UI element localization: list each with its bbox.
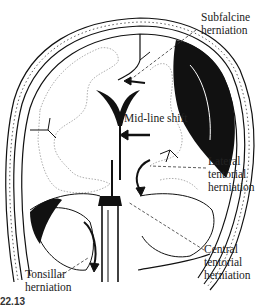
label-line: herniation xyxy=(204,269,251,282)
label-line: Subfalcine xyxy=(201,11,250,24)
label-line: herniation xyxy=(25,281,72,294)
label-line: herniation xyxy=(208,181,255,194)
falx xyxy=(118,34,140,80)
label-line: Central xyxy=(204,243,251,256)
label-central-tentorial-herniation: Central tentorial herniation xyxy=(204,243,251,282)
label-subfalcine-herniation: Subfalcine herniation xyxy=(201,11,250,37)
label-line: Mid-line shift xyxy=(124,112,188,125)
posterior-fossa-hematoma xyxy=(30,199,62,245)
figure-number: 22.13 xyxy=(0,296,25,305)
brainstem xyxy=(102,206,118,282)
label-lateral-tentorial-herniation: Lateral tentorial herniation xyxy=(208,155,255,194)
label-line: Lateral xyxy=(208,155,255,168)
label-line: tentorial xyxy=(208,168,255,181)
label-midline-shift: Mid-line shift xyxy=(124,112,188,125)
figure-caption: 22.13 xyxy=(0,296,25,305)
label-tonsillar-herniation: Tonsillar herniation xyxy=(25,268,72,294)
label-line: tentorial xyxy=(204,256,251,269)
label-line: herniation xyxy=(201,24,250,37)
label-line: Tonsillar xyxy=(25,268,72,281)
